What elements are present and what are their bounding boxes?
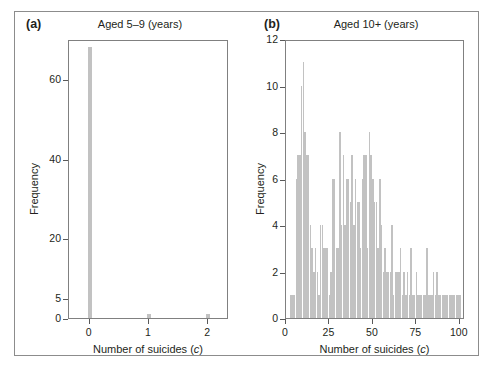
y-axis-tick-label: 60 xyxy=(45,73,61,85)
x-axis-tick xyxy=(459,319,460,324)
x-axis-tick xyxy=(207,319,208,324)
panel-b-xlabel-text: Number of suicides ( xyxy=(319,343,420,355)
x-axis-tick-label: 0 xyxy=(270,326,300,338)
y-axis-tick-label: 20 xyxy=(45,232,61,244)
x-axis-tick-label: 25 xyxy=(313,326,343,338)
panel-b-title: Aged 10+ (years) xyxy=(291,18,461,30)
panel-a-xlabel-text: Number of suicides ( xyxy=(93,343,194,355)
y-axis-tick-label: 8 xyxy=(264,126,278,138)
y-axis-tick-label: 6 xyxy=(264,173,278,185)
panel-b-bars xyxy=(286,41,463,318)
x-axis-tick-label: 1 xyxy=(133,326,163,338)
y-axis-tick-label: 0 xyxy=(45,312,61,324)
y-axis-tick xyxy=(280,226,285,227)
y-axis-tick xyxy=(63,319,68,320)
x-axis-tick xyxy=(415,319,416,324)
panel-a-bars xyxy=(69,41,227,318)
panel-a-plot-area xyxy=(68,40,228,319)
y-axis-tick-label: 0 xyxy=(264,312,278,324)
panel-b-y-axis-label: Frequency xyxy=(254,163,266,215)
y-axis-tick-label: 10 xyxy=(264,80,278,92)
y-axis-tick-label: 5 xyxy=(45,292,61,304)
panel-a-xlabel-close: ) xyxy=(199,343,203,355)
panel-a-title: Aged 5–9 (years) xyxy=(60,18,220,30)
x-axis-tick xyxy=(372,319,373,324)
x-axis-tick xyxy=(285,319,286,324)
y-axis-tick-label: 40 xyxy=(45,153,61,165)
panel-b-tag: (b) xyxy=(264,17,280,31)
y-axis-tick xyxy=(280,133,285,134)
x-axis-tick xyxy=(89,319,90,324)
panel-a-x-axis-label: Number of suicides (c) xyxy=(68,343,228,355)
panel-b: (b) Aged 10+ (years) Frequency Number of… xyxy=(246,0,493,373)
panel-a-y-axis-label: Frequency xyxy=(28,163,40,215)
x-axis-tick xyxy=(148,319,149,324)
y-axis-tick xyxy=(280,273,285,274)
bar xyxy=(459,295,460,318)
y-axis-tick-label: 4 xyxy=(264,219,278,231)
y-axis-tick xyxy=(280,180,285,181)
figure-container: (a) Aged 5–9 (years) Frequency Number of… xyxy=(0,0,493,373)
x-axis-tick-label: 75 xyxy=(400,326,430,338)
y-axis-tick-label: 2 xyxy=(264,266,278,278)
y-axis-tick xyxy=(63,160,68,161)
x-axis-tick-label: 0 xyxy=(74,326,104,338)
panel-b-x-axis-label: Number of suicides (c) xyxy=(285,343,464,355)
bar xyxy=(206,314,210,318)
x-axis-tick-label: 2 xyxy=(192,326,222,338)
y-axis-tick xyxy=(63,239,68,240)
y-axis-tick xyxy=(63,299,68,300)
bar xyxy=(88,47,92,318)
y-axis-tick xyxy=(280,87,285,88)
panel-b-xlabel-close: ) xyxy=(426,343,430,355)
x-axis-tick xyxy=(328,319,329,324)
bar xyxy=(147,314,151,318)
y-axis-tick xyxy=(280,40,285,41)
y-axis-tick-label: 12 xyxy=(264,33,278,45)
panel-a-tag: (a) xyxy=(26,17,41,31)
y-axis-tick xyxy=(63,80,68,81)
x-axis-tick-label: 50 xyxy=(357,326,387,338)
panel-b-plot-area xyxy=(285,40,464,319)
x-axis-tick-label: 100 xyxy=(444,326,474,338)
panel-a: (a) Aged 5–9 (years) Frequency Number of… xyxy=(0,0,247,373)
